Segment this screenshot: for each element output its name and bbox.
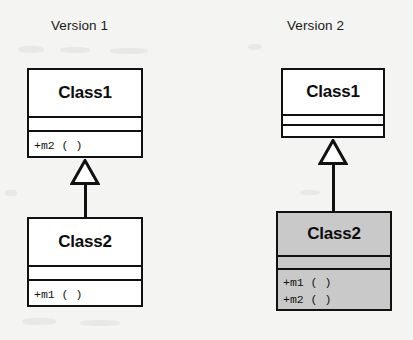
class-operations-compartment: +m2 ( ) <box>29 130 141 155</box>
class-attributes-compartment <box>29 265 141 279</box>
class-name-compartment: Class2 <box>29 219 141 265</box>
scan-speckle <box>18 46 44 53</box>
class-name-label: Class2 <box>29 219 141 265</box>
class-operations-compartment <box>283 124 383 135</box>
generalization-line-v2 <box>332 162 335 212</box>
class-attributes-compartment <box>29 116 141 130</box>
scan-speckle <box>110 48 148 54</box>
class-name-compartment: Class2 <box>278 213 390 255</box>
panel-title-version-2: Version 2 <box>287 18 344 33</box>
class-name-compartment: Class1 <box>29 70 141 116</box>
diagram-canvas: Version 1 Class1 +m2 ( ) Class2 +m1 ( ) <box>0 0 413 340</box>
class-name-compartment: Class1 <box>283 70 383 114</box>
uml-class-v1-class2[interactable]: Class2 +m1 ( ) <box>27 217 143 307</box>
uml-class-v2-class1[interactable]: Class1 <box>281 68 385 138</box>
operation-item: +m1 ( ) <box>283 275 390 292</box>
class-name-label: Class1 <box>283 70 383 114</box>
panel-title-version-1: Version 1 <box>51 18 108 33</box>
generalization-line-v1 <box>84 182 87 218</box>
operation-item: +m1 ( ) <box>34 287 141 304</box>
scan-speckle <box>22 318 56 325</box>
class-attributes-compartment <box>278 255 390 268</box>
class-attributes-compartment <box>283 114 383 124</box>
operation-item: +m2 ( ) <box>283 292 390 309</box>
operation-item: +m2 ( ) <box>34 138 141 155</box>
operations-list: +m1 ( ) +m2 ( ) <box>278 270 390 314</box>
class-name-label: Class2 <box>278 213 390 255</box>
operations-list: +m2 ( ) <box>29 132 141 161</box>
scan-speckle <box>80 320 120 326</box>
operations-list: +m1 ( ) <box>29 281 141 310</box>
scan-speckle <box>5 190 17 196</box>
class-name-label: Class1 <box>29 70 141 116</box>
scan-speckle <box>248 44 262 50</box>
uml-class-v1-class1[interactable]: Class1 +m2 ( ) <box>27 68 143 158</box>
uml-class-v2-class2[interactable]: Class2 +m1 ( ) +m2 ( ) <box>276 211 392 311</box>
class-operations-compartment: +m1 ( ) +m2 ( ) <box>278 268 390 308</box>
class-operations-compartment: +m1 ( ) <box>29 279 141 304</box>
scan-speckle <box>60 47 90 53</box>
scan-speckle <box>300 190 320 195</box>
